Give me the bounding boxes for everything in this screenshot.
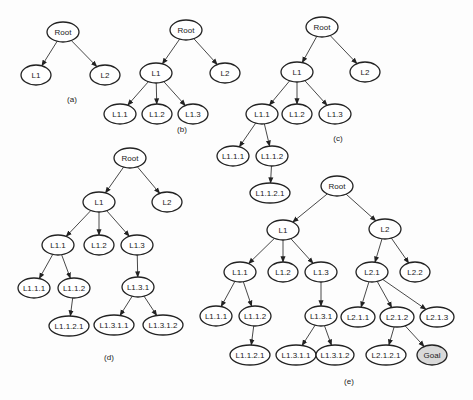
- node-label: L1.1: [50, 241, 66, 250]
- node-label: L1: [152, 69, 161, 78]
- edge-arrow: [305, 81, 327, 106]
- edge-arrow: [221, 281, 235, 306]
- edge-arrow: [156, 83, 157, 104]
- tree-node: L1.3: [178, 104, 208, 124]
- node-label: Root: [329, 182, 347, 191]
- tree-node: L1: [140, 63, 172, 83]
- goal-node: Goal: [417, 345, 447, 365]
- edge-arrow: [302, 36, 317, 62]
- node-label: L2: [361, 68, 370, 77]
- tree-node: Root: [47, 22, 79, 42]
- edge-arrow: [137, 167, 159, 193]
- tree-node: L1.3.1.2: [143, 315, 183, 335]
- node-label: L2: [221, 69, 230, 78]
- edge-arrow: [325, 326, 332, 345]
- tree-node: L1.3: [305, 262, 337, 282]
- tree-node: L2.2: [400, 262, 430, 282]
- tree-node: L1.3.1: [122, 277, 154, 297]
- edge-arrow: [346, 194, 376, 221]
- tree-node: L1.1.2: [239, 306, 271, 326]
- tree-node: L1.1.1: [18, 278, 50, 298]
- tree-node: L1.1.2: [58, 278, 90, 298]
- tree-node: L2: [210, 63, 240, 83]
- edge-arrow: [164, 82, 185, 106]
- edge-arrow: [137, 255, 138, 277]
- tree-node: L2: [369, 219, 401, 239]
- tree-node: L1.3.1.1: [276, 345, 316, 365]
- tree-node: L2: [350, 62, 380, 82]
- tree-node: L2.1.3: [420, 307, 454, 327]
- edge-arrow: [271, 166, 272, 183]
- edge-arrow: [302, 325, 315, 345]
- node-label: L1.3.1: [127, 283, 150, 292]
- node-label: L1.1: [112, 110, 128, 119]
- tree-node: Root: [321, 176, 353, 196]
- tree-node: L1.1.2.1: [49, 316, 89, 336]
- edge-arrow: [128, 82, 149, 105]
- tree-node: L1.1.1: [217, 146, 249, 166]
- edge-arrow: [391, 238, 408, 263]
- node-label: L1.2: [91, 241, 107, 250]
- tree-node: L1: [21, 65, 51, 85]
- diagram-svg: RootL1L2RootL1L2L1.1L1.2L1.3RootL1L2L1.1…: [0, 0, 473, 400]
- edge-arrow: [162, 39, 179, 64]
- node-label: L1.1.2.1: [236, 351, 265, 360]
- tree-node: L1.1.2.1: [230, 345, 270, 365]
- tree-node: L2.1.1: [341, 307, 375, 327]
- node-label: L1.1.1: [205, 312, 228, 321]
- edge-arrow: [269, 81, 289, 105]
- tree-node: L1.3.1.1: [94, 315, 134, 335]
- node-label: L1.3: [129, 241, 145, 250]
- edge-arrow: [239, 123, 255, 147]
- panel-a: [42, 41, 97, 67]
- node-label: L1.3.1.1: [100, 321, 129, 330]
- node-label: L1.1.2.1: [55, 322, 84, 331]
- node-label: L1.1.1: [23, 284, 46, 293]
- edge-arrow: [105, 167, 123, 193]
- edge-arrow: [330, 36, 357, 64]
- edge-arrow: [243, 282, 251, 306]
- tree-node: L1.1.2.1: [250, 183, 290, 203]
- tree-node: L1.3.1.2: [316, 345, 354, 365]
- tree-node: L2.1: [356, 262, 388, 282]
- edge-arrow: [293, 194, 328, 222]
- edge-arrow: [194, 39, 217, 65]
- tree-node: L2: [152, 192, 182, 212]
- edge-arrow: [264, 124, 269, 146]
- panel-label-c: (c): [333, 134, 343, 143]
- edge-arrow: [361, 282, 369, 307]
- nodes-layer: RootL1L2RootL1L2L1.1L1.2L1.3RootL1L2L1.1…: [18, 17, 454, 365]
- tree-node: L1.2: [142, 104, 172, 124]
- node-label: L1.1: [254, 110, 270, 119]
- edge-arrow: [377, 281, 391, 307]
- edge-arrow: [251, 326, 253, 345]
- edge-arrow: [71, 41, 96, 67]
- edge-arrow: [66, 211, 91, 237]
- tree-node: L1.1: [42, 235, 74, 255]
- node-label: L1.3.1.1: [282, 351, 311, 360]
- node-label: L1.2: [149, 110, 165, 119]
- edge-arrow: [42, 41, 57, 65]
- node-label: L1: [293, 68, 302, 77]
- tree-node: L1.3: [319, 104, 351, 124]
- edge-arrow: [383, 279, 426, 309]
- edge-arrow: [405, 326, 424, 347]
- node-label: L2.1.3: [426, 313, 449, 322]
- tree-node: L1.1: [224, 262, 256, 282]
- edge-arrow: [70, 298, 72, 316]
- edge-arrow: [120, 296, 132, 315]
- tree-node: Root: [114, 148, 146, 168]
- node-label: L1.1: [232, 268, 248, 277]
- tree-node: Root: [170, 20, 202, 40]
- node-label: L1.1.2.1: [256, 189, 285, 198]
- node-label: Root: [314, 23, 332, 32]
- panel-label-b: (b): [177, 125, 187, 134]
- panel-label-e: (e): [344, 377, 354, 386]
- tree-node: L1.2: [268, 262, 298, 282]
- panel-label-a: (a): [67, 95, 77, 104]
- node-label: L2: [101, 71, 110, 80]
- edge-arrow: [39, 254, 52, 278]
- edge-arrow: [62, 255, 71, 279]
- tree-node: L2.1.2.1: [366, 345, 406, 365]
- node-label: L1.2: [275, 268, 291, 277]
